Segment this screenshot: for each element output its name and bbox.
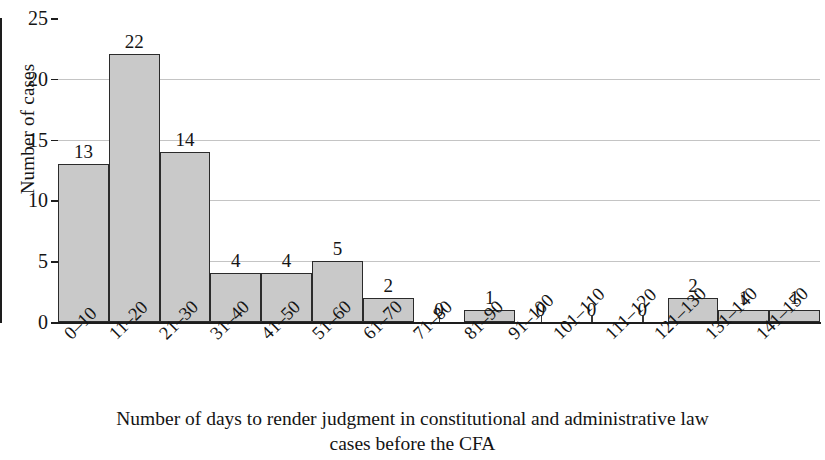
bar-value-label: 22 [125,32,144,51]
y-tick-label: 0 [38,312,48,332]
plot-area: 0510152025 132214445201000211 [58,18,820,322]
y-tick-label: 15 [28,130,48,150]
y-tick-mark [51,140,58,142]
gridline [58,140,820,141]
y-tick-label: 20 [28,69,48,89]
y-tick-label: 25 [28,8,48,28]
y-tick-label: 10 [28,190,48,210]
caption-line-1: Number of days to render judgment in con… [40,406,785,431]
y-tick-mark [51,261,58,263]
bar-value-label: 4 [231,251,241,270]
bar-value-label: 4 [282,251,292,270]
bar-value-label: 13 [74,142,93,161]
y-axis-line [0,18,2,323]
y-tick-mark [51,200,58,202]
y-tick-mark [51,79,58,81]
bar-value-label: 14 [176,130,195,149]
bar-value-label: 5 [333,239,343,258]
bar-value-label: 2 [383,276,393,295]
figure-caption: Number of days to render judgment in con… [40,406,785,456]
y-tick-mark [51,322,58,324]
gridline [58,79,820,80]
bar [160,152,211,322]
bar [109,54,160,322]
bar [58,164,109,322]
y-tick-mark [51,18,58,20]
chart-figure: Number of cases 0510152025 1322144452010… [0,0,825,460]
caption-line-2: cases before the CFA [40,431,785,456]
y-tick-label: 5 [38,251,48,271]
